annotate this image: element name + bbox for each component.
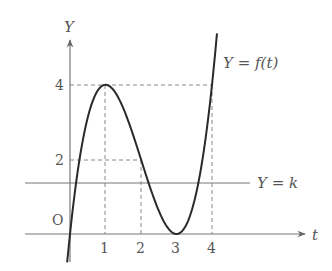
x-tick-2: 2 <box>136 240 145 256</box>
t-axis-label: t <box>312 226 319 244</box>
y-tick-4: 4 <box>55 77 64 93</box>
curve-f-of-t <box>67 33 217 262</box>
x-tick-3: 3 <box>171 240 180 256</box>
k-line-label: Y = k <box>257 174 298 192</box>
curve-label: Y = f(t) <box>223 54 278 72</box>
x-tick-1: 1 <box>100 240 109 256</box>
x-tick-4: 4 <box>207 240 216 256</box>
function-graph: Y t O 1 2 3 4 2 4 Y = f(t) Y = k <box>0 0 332 271</box>
y-axis-label: Y <box>64 18 76 36</box>
y-tick-2: 2 <box>55 152 64 168</box>
origin-label: O <box>52 212 63 228</box>
